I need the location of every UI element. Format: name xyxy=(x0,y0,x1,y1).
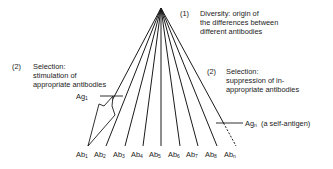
antibody-label: Ab7 xyxy=(186,150,198,161)
antibody-line-dashed xyxy=(224,123,237,146)
antibody-label: Ab2 xyxy=(94,150,106,161)
antibody-label: Ab5 xyxy=(149,150,161,161)
antibody-line xyxy=(106,8,161,146)
stage2-right-line-1: Selection: xyxy=(226,67,258,76)
antibody-label: Ab1 xyxy=(76,150,88,161)
antibody-label: Ab6 xyxy=(168,150,180,161)
stage2-right-line-3: appropriate antibodies xyxy=(226,85,299,94)
stage2-left-line-1: Selection: xyxy=(33,62,65,71)
stage2-left-number: (2) xyxy=(12,62,21,71)
stage2-left-line-3: appropriate antibodies xyxy=(33,80,106,89)
stage2-left-line-2: stimulation of xyxy=(33,71,77,80)
stage1-line-3: different antibodies xyxy=(200,27,262,36)
antibody-line xyxy=(161,8,180,146)
antibody-label: Ab4 xyxy=(131,150,143,161)
antibody-line xyxy=(143,8,161,146)
stage2-right-line-2: suppression of in- xyxy=(226,76,284,85)
antibody-line xyxy=(161,8,198,146)
stage1-line-1: Diversity: origin of xyxy=(200,9,259,18)
antigen-1-label: Ag1 xyxy=(76,92,88,103)
stage2-right-number: (2) xyxy=(207,67,216,76)
stage1-line-2: the differences between xyxy=(200,18,278,27)
antibody-line xyxy=(125,8,161,146)
antibody-label: Ab3 xyxy=(113,150,125,161)
stage1-number: (1) xyxy=(180,9,189,18)
antigen-n-label: Agn (a self-antigen) xyxy=(245,119,310,130)
antibody-label: Ab8 xyxy=(205,150,217,161)
antibody-label: Abn xyxy=(224,150,236,161)
stimulation-arrow xyxy=(88,96,115,146)
